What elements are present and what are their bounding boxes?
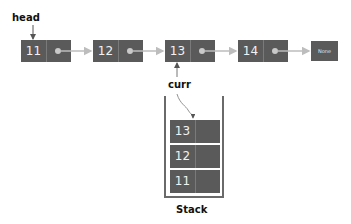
curr-to-stack-arrow — [177, 94, 193, 118]
arrows-layer — [0, 0, 351, 224]
